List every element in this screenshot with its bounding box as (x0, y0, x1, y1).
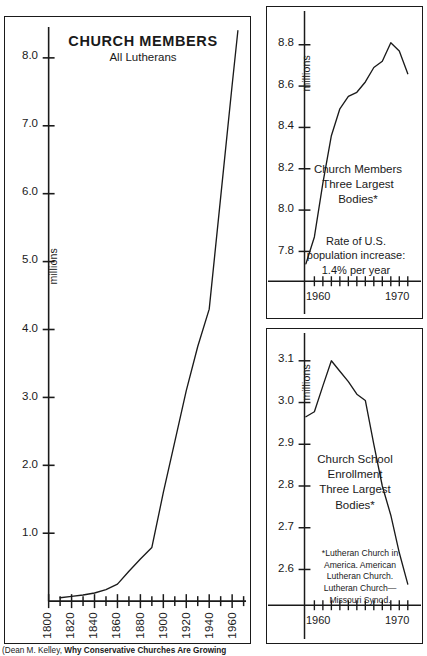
bottom-chart-y-tick-label: 3.1 (266, 352, 294, 364)
main-chart-x-tick-label: 1800 (41, 612, 53, 639)
bottom-chart-y-tick-label: 2.7 (266, 520, 294, 532)
main-chart-x-tick-label: 1880 (134, 612, 146, 639)
main-chart-y-tick-label: 1.0 (4, 526, 38, 538)
top-chart-x-tick-label: 1960 (306, 290, 330, 302)
top-chart-y-tick-label: 8.2 (266, 161, 294, 173)
main-chart-x-tick-label: 1820 (64, 612, 76, 639)
bottom-chart-x-tick-label: 1960 (306, 614, 330, 626)
main-chart-y-tick-label: 5.0 (4, 253, 38, 265)
main-chart-y-tick-label: 7.0 (4, 117, 38, 129)
top-chart-y-tick-label: 7.8 (266, 244, 294, 256)
bottom-chart-units-label: millions (300, 364, 312, 401)
top-chart-units-label: millions (300, 55, 312, 92)
main-chart-x-tick-label: 1860 (110, 612, 122, 639)
top-chart-y-tick-label: 8.4 (266, 119, 294, 131)
main-chart-x-tick-label: 1840 (87, 612, 99, 639)
top-chart-caption: Church Members Three Largest Bodies* (296, 162, 420, 208)
main-chart-plot (5, 17, 250, 643)
main-chart-y-tick-label: 2.0 (4, 458, 38, 470)
top-chart-data-line (306, 43, 408, 264)
figure-root: CHURCH MEMBERS All Lutherans millions 8.… (0, 0, 427, 656)
bottom-chart-y-tick-label: 3.0 (266, 394, 294, 406)
main-chart-y-tick-label: 4.0 (4, 322, 38, 334)
source-note: (Dean M. Kelley, Why Conservative Church… (2, 646, 302, 655)
main-chart-panel (4, 16, 251, 644)
main-chart-data-line (60, 31, 238, 598)
bottom-chart-x-tick-label: 1970 (385, 614, 409, 626)
main-chart-x-tick-label: 1940 (203, 612, 215, 639)
bottom-chart-y-tick-label: 2.9 (266, 436, 294, 448)
bottom-chart-caption: Church School Enrollment Three Largest B… (292, 452, 418, 513)
main-chart-y-tick-label: 6.0 (4, 185, 38, 197)
main-chart-units-label: millions (47, 248, 59, 285)
main-chart-y-tick-label: 3.0 (4, 390, 38, 402)
main-chart-x-tick-label: 1900 (157, 612, 169, 639)
bottom-chart-footnote: *Lutheran Church in America. American Lu… (300, 548, 420, 606)
top-chart-population-note: Rate of U.S. population increase: 1.4% p… (288, 234, 424, 277)
top-chart-y-tick-label: 8.8 (266, 36, 294, 48)
source-note-title: Why Conservative Churches Are Growing (64, 646, 226, 655)
main-chart-x-tick-label: 1960 (226, 612, 238, 639)
top-chart-x-tick-label: 1970 (385, 290, 409, 302)
main-chart-x-tick-label: 1920 (180, 612, 192, 639)
bottom-chart-y-tick-label: 2.6 (266, 562, 294, 574)
top-chart-y-tick-label: 8.6 (266, 78, 294, 90)
main-chart-y-tick-label: 8.0 (4, 49, 38, 61)
top-chart-y-tick-label: 8.0 (266, 202, 294, 214)
bottom-chart-y-tick-label: 2.8 (266, 478, 294, 490)
source-note-plain: (Dean M. Kelley, (2, 646, 64, 655)
